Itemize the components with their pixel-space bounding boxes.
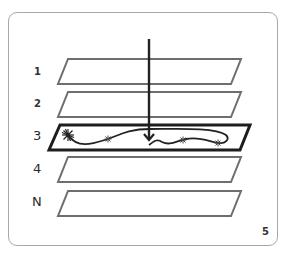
- layer-label-1: 1: [34, 66, 41, 77]
- layer-label-2: 2: [34, 98, 41, 109]
- star-icon: [105, 136, 112, 143]
- layer-label-n: N: [32, 194, 42, 209]
- layer-label-3: 3: [33, 128, 41, 143]
- star-icon: [215, 140, 222, 147]
- layers-diagram: [0, 0, 287, 258]
- plane-n: [58, 191, 241, 216]
- starburst-icon: [62, 129, 74, 141]
- star-icon: [180, 137, 187, 144]
- layer-label-4: 4: [33, 161, 41, 176]
- page-number: 5: [262, 226, 269, 237]
- plane-4: [58, 157, 241, 182]
